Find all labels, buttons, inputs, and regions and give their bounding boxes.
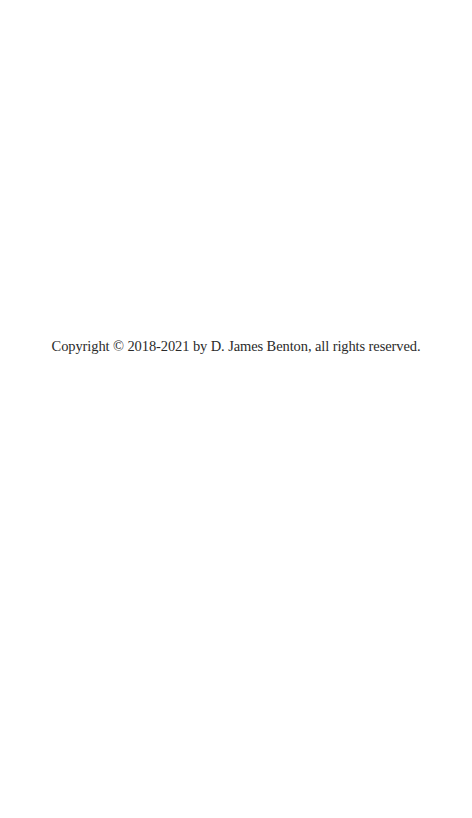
document-page: Copyright © 2018-2021 by D. James Benton… [0, 0, 472, 818]
copyright-notice: Copyright © 2018-2021 by D. James Benton… [0, 338, 472, 355]
